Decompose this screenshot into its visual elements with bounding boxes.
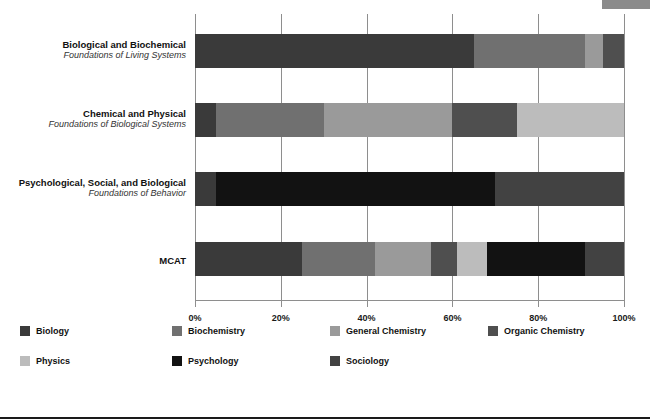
category-label: MCAT	[1, 255, 186, 266]
bar-segment	[195, 172, 216, 206]
category-label-main: Chemical and Physical	[1, 108, 186, 119]
legend-item[interactable]: Organic Chemistry	[488, 326, 585, 336]
legend-swatch-icon	[172, 326, 182, 336]
x-axis-tick	[538, 301, 539, 307]
legend-swatch-icon	[488, 326, 498, 336]
legend-label: Organic Chemistry	[504, 326, 585, 336]
category-label: Biological and BiochemicalFoundations of…	[1, 39, 186, 60]
x-axis-tick-label: 80%	[529, 313, 547, 323]
legend-swatch-icon	[172, 356, 182, 366]
bar-row	[195, 103, 624, 137]
legend-item[interactable]: Physics	[20, 356, 70, 366]
bar-segment	[195, 242, 302, 276]
bar-segment	[195, 103, 216, 137]
legend-label: Sociology	[346, 356, 389, 366]
bar-segment	[517, 103, 624, 137]
chart-page: Biological and BiochemicalFoundations of…	[0, 0, 650, 419]
x-axis-tick	[452, 301, 453, 307]
bar-segment	[603, 34, 624, 68]
legend-item[interactable]: Biochemistry	[172, 326, 245, 336]
bar-segment	[487, 242, 586, 276]
legend-label: General Chemistry	[346, 326, 426, 336]
category-label-main: Biological and Biochemical	[1, 39, 186, 50]
category-label: Psychological, Social, and BiologicalFou…	[1, 177, 186, 198]
bar-segment	[375, 242, 431, 276]
x-axis-tick-label: 60%	[443, 313, 461, 323]
category-label-column: Biological and BiochemicalFoundations of…	[0, 14, 186, 301]
bar-segment	[431, 242, 457, 276]
bar-row	[195, 172, 624, 206]
legend-label: Psychology	[188, 356, 239, 366]
x-axis-tick-label: 100%	[612, 313, 635, 323]
bar-segment	[474, 34, 586, 68]
x-axis-tick	[624, 301, 625, 307]
bar-segment	[216, 172, 495, 206]
category-label-sub: Foundations of Behavior	[1, 188, 186, 198]
legend-item[interactable]: Psychology	[172, 356, 239, 366]
gridline	[624, 14, 625, 301]
legend-label: Biochemistry	[188, 326, 245, 336]
plot-area: 0%20%40%60%80%100%	[195, 14, 624, 301]
legend-swatch-icon	[330, 356, 340, 366]
x-axis-tick	[281, 301, 282, 307]
bar-segment	[324, 103, 453, 137]
corner-tab	[602, 0, 650, 9]
category-label-main: MCAT	[1, 255, 186, 266]
stacked-bar-chart: Biological and BiochemicalFoundations of…	[0, 14, 650, 314]
bar-segment	[452, 103, 516, 137]
bar-row	[195, 242, 624, 276]
chart-legend: BiologyBiochemistryGeneral ChemistryOrga…	[0, 326, 650, 406]
x-axis-tick-label: 20%	[272, 313, 290, 323]
legend-item[interactable]: Sociology	[330, 356, 389, 366]
bar-segment	[585, 242, 624, 276]
x-axis-tick	[367, 301, 368, 307]
category-label-sub: Foundations of Living Systems	[1, 50, 186, 60]
legend-label: Physics	[36, 356, 70, 366]
x-axis-tick-label: 0%	[188, 313, 201, 323]
legend-swatch-icon	[20, 326, 30, 336]
category-label: Chemical and PhysicalFoundations of Biol…	[1, 108, 186, 129]
legend-swatch-icon	[20, 356, 30, 366]
bar-segment	[216, 103, 323, 137]
legend-item[interactable]: General Chemistry	[330, 326, 426, 336]
bar-segment	[302, 242, 375, 276]
bar-segment	[495, 172, 624, 206]
legend-item[interactable]: Biology	[20, 326, 69, 336]
legend-swatch-icon	[330, 326, 340, 336]
x-axis-line	[195, 300, 624, 301]
bar-segment	[585, 34, 602, 68]
bar-segment	[457, 242, 487, 276]
x-axis-tick-label: 40%	[358, 313, 376, 323]
bar-row	[195, 34, 624, 68]
x-axis-tick	[195, 301, 196, 307]
legend-label: Biology	[36, 326, 69, 336]
bar-segment	[195, 34, 474, 68]
category-label-main: Psychological, Social, and Biological	[1, 177, 186, 188]
category-label-sub: Foundations of Biological Systems	[1, 119, 186, 129]
